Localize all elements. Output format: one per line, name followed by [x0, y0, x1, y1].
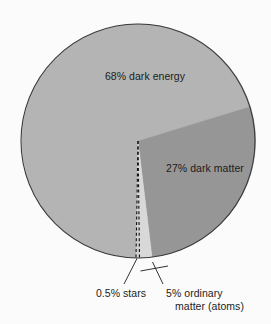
label-dark-energy: 68% dark energy [105, 70, 186, 82]
leader-line-stars [124, 259, 137, 285]
pie-chart-svg: 68% dark energy 27% dark matter 0.5% sta… [0, 0, 271, 324]
label-stars: 0.5% stars [96, 287, 146, 299]
pie-chart-figure: 68% dark energy 27% dark matter 0.5% sta… [0, 0, 271, 324]
label-dark-matter: 27% dark matter [166, 162, 244, 174]
leader-line-ordinary-matter [153, 262, 164, 284]
label-ordinary-matter-line1: 5% ordinary [166, 287, 223, 299]
label-ordinary-matter-line2: matter (atoms) [175, 300, 244, 312]
arc-tick-ordinary-matter [141, 266, 169, 271]
